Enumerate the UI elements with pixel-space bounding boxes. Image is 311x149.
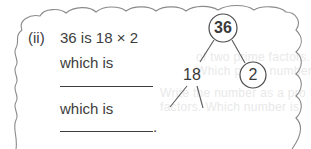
- problem-statement: 36 is 18 × 2: [60, 29, 138, 47]
- branch-36-to-18: [200, 40, 214, 62]
- sentence-period: .: [153, 118, 157, 136]
- which-is-label-1: which is: [60, 54, 113, 72]
- tree-node-36: 36: [208, 19, 238, 37]
- branch-18-left: [170, 86, 187, 107]
- tree-node-18: 18: [177, 66, 207, 84]
- which-is-label-2: which is: [60, 100, 113, 118]
- answer-blank-2[interactable]: [60, 131, 153, 132]
- problem-label: (ii): [28, 29, 45, 47]
- branch-18-right: [197, 86, 203, 108]
- worksheet-panel: of two prime factors. Fi Which prime num…: [0, 0, 311, 149]
- answer-blank-1[interactable]: [60, 86, 153, 87]
- tree-node-2: 2: [238, 66, 268, 84]
- branch-36-to-2: [232, 40, 245, 63]
